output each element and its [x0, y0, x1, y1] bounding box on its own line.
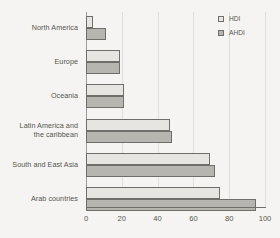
category-label-line: Arab countries: [0, 194, 78, 203]
bar-ahdi: [86, 165, 215, 177]
category-label: South and East Asia: [0, 160, 78, 169]
x-axis-line: [86, 207, 266, 208]
category-label: North America: [0, 23, 78, 32]
bar-hdi: [86, 16, 93, 28]
category-label: Latin America andthe caribbean: [0, 121, 78, 139]
bar-hdi: [86, 119, 170, 131]
legend-swatch-hdi: [218, 16, 224, 22]
category-label: Oceania: [0, 91, 78, 100]
category-label-line: Europe: [0, 57, 78, 66]
bar-ahdi: [86, 131, 172, 143]
x-tick-label-100: 100: [250, 214, 280, 223]
bar-hdi: [86, 187, 220, 199]
bar-ahdi: [86, 96, 124, 108]
category-label-line: Oceania: [0, 91, 78, 100]
legend-label-ahdi: AHDI: [229, 28, 245, 38]
category-label: Europe: [0, 57, 78, 66]
category-label-line: South and East Asia: [0, 160, 78, 169]
category-label-line: the caribbean: [0, 130, 78, 139]
bar-hdi: [86, 153, 210, 165]
category-label-line: Latin America and: [0, 121, 78, 130]
x-tick-label-80: 80: [214, 214, 244, 223]
category-label: Arab countries: [0, 194, 78, 203]
bar-hdi: [86, 50, 120, 62]
x-tick-label-0: 0: [71, 214, 101, 223]
bar-ahdi: [86, 62, 120, 74]
category-label-line: North America: [0, 23, 78, 32]
bar-ahdi: [86, 199, 256, 211]
legend-swatch-ahdi: [218, 30, 224, 36]
bar-row: South and East Asia: [0, 153, 280, 183]
bar-chart: North AmericaEuropeOceaniaLatin America …: [0, 0, 280, 238]
bar-row: Europe: [0, 50, 280, 80]
bar-hdi: [86, 84, 124, 96]
legend-label-hdi: HDI: [229, 14, 240, 24]
bar-row: Arab countries: [0, 187, 280, 217]
bar-row: Latin America andthe caribbean: [0, 119, 280, 149]
bar-row: Oceania: [0, 84, 280, 114]
x-tick-label-60: 60: [178, 214, 208, 223]
x-tick-label-20: 20: [107, 214, 137, 223]
bar-ahdi: [86, 28, 106, 40]
x-tick-label-40: 40: [143, 214, 173, 223]
